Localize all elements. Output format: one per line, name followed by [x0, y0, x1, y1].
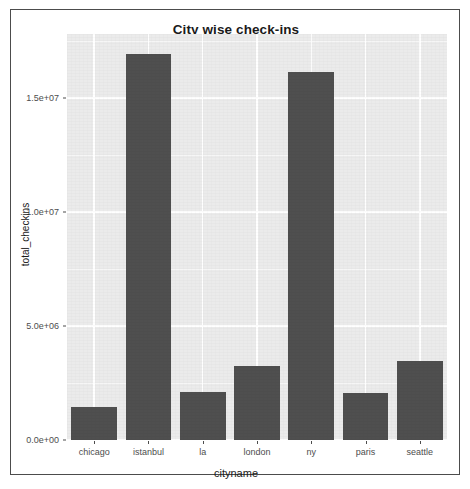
x-tick-mark: [420, 441, 421, 444]
bar: [397, 361, 443, 440]
x-tick-label: chicago: [79, 447, 110, 457]
bar: [126, 54, 172, 440]
bar: [71, 407, 117, 440]
x-tick-label: seattle: [407, 447, 434, 457]
x-tick-mark: [203, 441, 204, 444]
y-tick-label: 1.0e+07: [26, 207, 59, 217]
bar: [180, 392, 226, 440]
y-tick-mark: [63, 97, 66, 98]
bar: [288, 72, 334, 440]
y-tick-mark: [63, 325, 66, 326]
y-tick-label: 5.0e+06: [26, 321, 59, 331]
y-tick-mark: [63, 211, 66, 212]
bar: [234, 366, 280, 440]
chart-screenshot: City wise check-ins 0.0e+005.0e+061.0e+0…: [0, 0, 470, 489]
x-tick-label: istanbul: [133, 447, 164, 457]
y-tick-label: 0.0e+00: [26, 435, 59, 445]
gridline-vertical-major: [93, 34, 94, 440]
x-tick-label: la: [199, 447, 206, 457]
y-axis-title: total_checkins: [20, 195, 31, 275]
x-axis-title: cityname: [11, 467, 461, 479]
bar: [343, 393, 389, 440]
y-tick-label: 1.5e+07: [26, 93, 59, 103]
x-tick-mark: [366, 441, 367, 444]
x-tick-mark: [257, 441, 258, 444]
plot-panel: [67, 34, 447, 440]
x-tick-label: paris: [356, 447, 376, 457]
y-tick-mark: [63, 440, 66, 441]
x-tick-label: london: [243, 447, 270, 457]
x-tick-label: ny: [307, 447, 317, 457]
plot-frame: City wise check-ins 0.0e+005.0e+061.0e+0…: [10, 9, 460, 475]
x-tick-mark: [148, 441, 149, 444]
gridline-vertical-major: [365, 34, 366, 440]
x-tick-mark: [94, 441, 95, 444]
gridline-vertical-major: [202, 34, 203, 440]
x-tick-mark: [311, 441, 312, 444]
